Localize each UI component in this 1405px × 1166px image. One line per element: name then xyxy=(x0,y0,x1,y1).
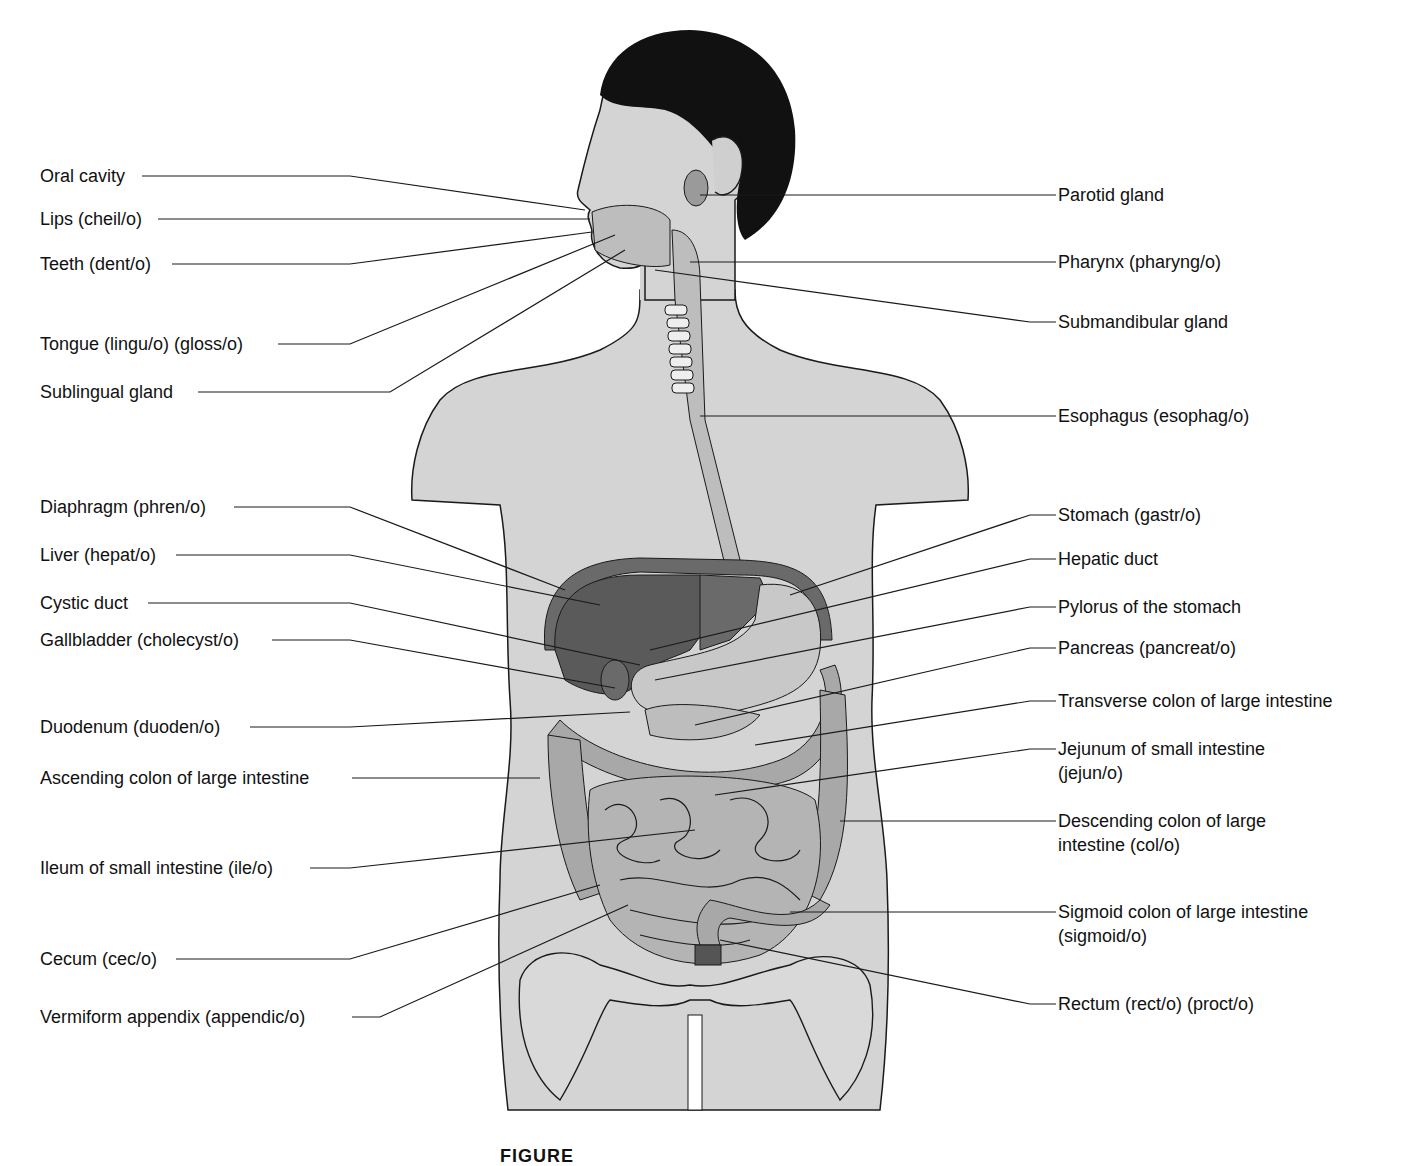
label-descending-colon: Descending colon of large xyxy=(1058,810,1266,833)
label-transverse-colon: Transverse colon of large intestine xyxy=(1058,690,1332,713)
label-rectum: Rectum (rect/o) (proct/o) xyxy=(1058,993,1254,1016)
label-cystic-duct: Cystic duct xyxy=(40,592,128,615)
label-diaphragm: Diaphragm (phren/o) xyxy=(40,496,206,519)
label-vermiform-appendix: Vermiform appendix (appendic/o) xyxy=(40,1006,305,1029)
label-submandibular-gland: Submandibular gland xyxy=(1058,311,1228,334)
label-lips: Lips (cheil/o) xyxy=(40,208,142,231)
label-oral-cavity: Oral cavity xyxy=(40,165,125,188)
rectum xyxy=(695,945,721,965)
label-jejunum: Jejunum of small intestine xyxy=(1058,738,1265,761)
label-jejunum-line2: (jejun/o) xyxy=(1058,762,1123,785)
label-sublingual-gland: Sublingual gland xyxy=(40,381,173,404)
label-pancreas: Pancreas (pancreat/o) xyxy=(1058,637,1236,660)
label-descending-colon-line2: intestine (col/o) xyxy=(1058,834,1180,857)
label-parotid-gland: Parotid gland xyxy=(1058,184,1164,207)
label-cecum: Cecum (cec/o) xyxy=(40,948,157,971)
label-sigmoid-colon-line2: (sigmoid/o) xyxy=(1058,925,1147,948)
label-esophagus: Esophagus (esophag/o) xyxy=(1058,405,1249,428)
label-stomach: Stomach (gastr/o) xyxy=(1058,504,1201,527)
figure-caption: FIGURE xyxy=(500,1146,574,1166)
label-gallbladder: Gallbladder (cholecyst/o) xyxy=(40,629,239,652)
label-ileum: Ileum of small intestine (ile/o) xyxy=(40,857,273,880)
label-pylorus: Pylorus of the stomach xyxy=(1058,596,1241,619)
label-tongue: Tongue (lingu/o) (gloss/o) xyxy=(40,333,243,356)
label-duodenum: Duodenum (duoden/o) xyxy=(40,716,220,739)
label-teeth: Teeth (dent/o) xyxy=(40,253,151,276)
label-sigmoid-colon: Sigmoid colon of large intestine xyxy=(1058,901,1308,924)
label-hepatic-duct: Hepatic duct xyxy=(1058,548,1158,571)
label-pharynx: Pharynx (pharyng/o) xyxy=(1058,251,1221,274)
label-ascending-colon: Ascending colon of large intestine xyxy=(40,767,309,790)
label-liver: Liver (hepat/o) xyxy=(40,544,156,567)
